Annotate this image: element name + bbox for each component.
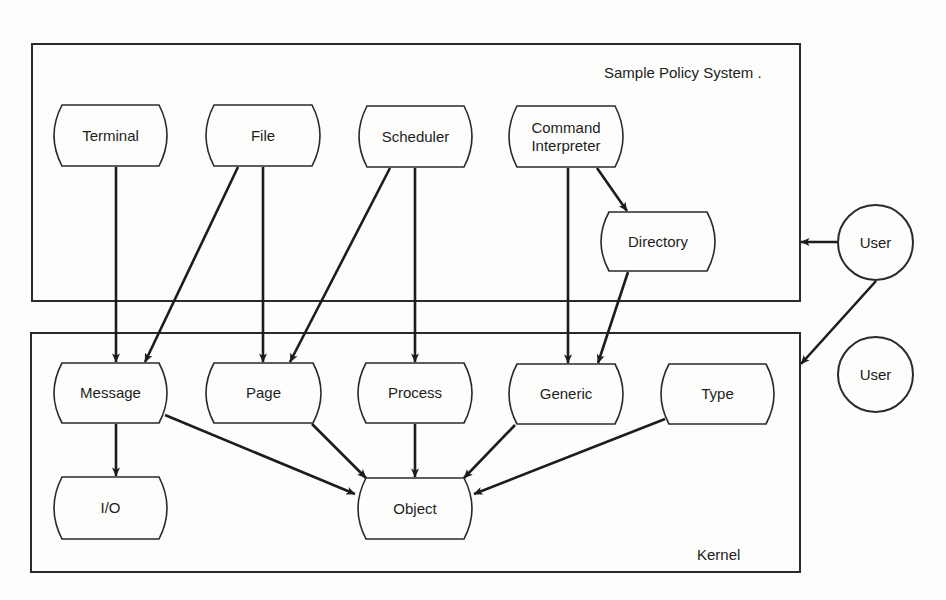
node-label: Page [246,384,281,402]
node-io: I/O [50,476,171,540]
node-scheduler: Scheduler [355,105,476,168]
node-object: Object [354,477,476,540]
node-label: Message [80,384,141,402]
user-label: User [860,234,892,251]
kernel-policy-diagram: Sample Policy System . Kernel Terminal F… [0,0,946,600]
edge-arrow [145,167,238,362]
node-label: Type [701,385,734,403]
node-label: Terminal [82,127,139,145]
node-label: Generic [540,385,593,403]
node-message: Message [50,362,171,424]
edge-arrow [290,168,390,362]
node-label: Scheduler [382,128,450,146]
node-label: Process [388,384,442,402]
edge-arrow [597,168,627,211]
node-page: Page [202,362,325,424]
edge-arrow [464,425,515,478]
node-label: I/O [100,499,120,517]
user-node-2: User [837,336,914,413]
edge-arrow [165,415,355,494]
node-label: Command Interpreter [531,119,600,155]
user-node-1: User [837,204,914,281]
user-label: User [860,366,892,383]
node-generic: Generic [505,363,627,425]
node-label: Object [393,500,436,518]
node-command-interpreter: Command Interpreter [505,105,627,168]
node-label: File [251,127,275,145]
edge-arrow [474,419,665,494]
node-directory: Directory [597,211,719,272]
edge-arrow [598,272,628,363]
node-terminal: Terminal [50,104,171,167]
node-type: Type [657,363,778,425]
node-file: File [202,104,324,167]
edge-arrow [312,424,366,478]
node-process: Process [354,362,476,424]
node-label: Directory [628,233,688,251]
